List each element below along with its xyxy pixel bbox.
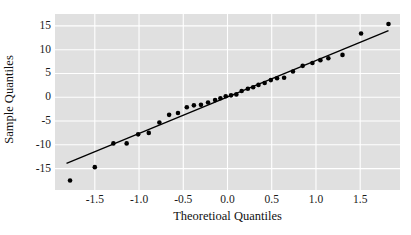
x-tick-label: 0.0 [208, 194, 248, 206]
qq-plot-figure: 151050-5-10-15 -1.5-1.0-0.50.00.51.01.5 … [0, 0, 411, 235]
x-tick-label: -0.5 [163, 194, 203, 206]
data-point [218, 96, 223, 101]
y-axis-title: Sample Quantiles [2, 25, 17, 175]
data-point [234, 92, 239, 97]
data-point [340, 53, 345, 58]
y-tick-label: 0 [21, 91, 51, 103]
data-point [136, 132, 141, 137]
data-point [167, 113, 172, 118]
data-point [111, 141, 116, 146]
x-tick-label: 1.5 [340, 194, 380, 206]
data-point [269, 78, 274, 83]
x-tick-label: 1.0 [296, 194, 336, 206]
data-point [282, 75, 287, 80]
data-point [275, 76, 280, 81]
scatter-points [68, 22, 391, 183]
data-point [262, 81, 267, 86]
data-point [326, 56, 331, 61]
y-tick-label: -15 [21, 163, 51, 175]
data-point [199, 103, 204, 108]
data-point [229, 93, 234, 98]
data-point [157, 120, 162, 125]
x-axis-title: Theoretioal Quantiles [55, 209, 400, 224]
data-point [192, 103, 197, 108]
data-point [251, 85, 256, 90]
plot-canvas [55, 14, 400, 190]
data-point [176, 111, 181, 116]
data-point [246, 86, 251, 91]
data-point [93, 165, 98, 170]
data-point [291, 69, 296, 74]
data-point [124, 141, 129, 146]
y-tick-label: -10 [21, 139, 51, 151]
y-tick-label: 10 [21, 44, 51, 56]
plot-panel [55, 14, 400, 190]
data-point [310, 61, 315, 66]
data-point [300, 64, 305, 69]
data-point [206, 100, 211, 105]
x-tick-label: -1.5 [75, 194, 115, 206]
data-point [223, 94, 228, 99]
y-tick-label: 5 [21, 68, 51, 80]
data-point [386, 22, 391, 27]
y-tick-label: -5 [21, 115, 51, 127]
x-axis-ticks: -1.5-1.0-0.50.00.51.01.5 [55, 194, 400, 210]
x-tick-label: -1.0 [119, 194, 159, 206]
data-point [318, 58, 323, 63]
data-point [239, 89, 244, 94]
data-point [213, 98, 218, 103]
data-point [256, 83, 261, 88]
y-tick-label: 15 [21, 20, 51, 32]
gridlines [55, 14, 400, 190]
x-tick-label: 0.5 [252, 194, 292, 206]
data-point [359, 31, 364, 36]
data-point [68, 178, 73, 183]
data-point [146, 131, 151, 136]
data-point [185, 105, 190, 110]
